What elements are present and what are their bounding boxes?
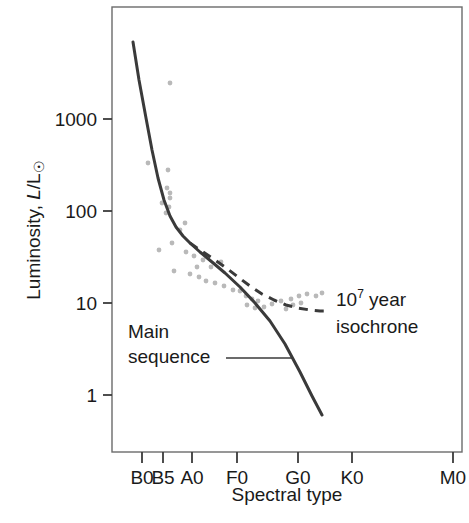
scatter-point <box>305 292 310 297</box>
scatter-point <box>262 305 267 310</box>
y-axis-title: Luminosity, L/L☉ <box>23 160 47 299</box>
scatter-point <box>168 196 173 201</box>
y-tick-label: 1 <box>86 385 97 406</box>
scatter-point <box>201 258 206 263</box>
scatter-point <box>297 294 302 299</box>
scatter-point <box>165 186 170 191</box>
scatter-point <box>320 291 325 296</box>
scatter-point <box>157 248 162 253</box>
scatter-point <box>184 250 189 255</box>
scatter-point <box>172 269 177 274</box>
y-tick-label: 10 <box>76 293 97 314</box>
plot-frame <box>112 7 462 452</box>
scatter-point <box>209 265 214 270</box>
scatter-point <box>231 288 236 293</box>
scatter-point <box>192 254 197 259</box>
scatter-point <box>279 299 284 304</box>
x-tick-label: B5 <box>151 467 174 488</box>
hr-diagram-figure: 1000100101 B0B5A0F0G0K0M0 Main sequence … <box>0 0 469 523</box>
x-axis-ticks <box>142 452 453 463</box>
isochrone-annotation: 107 year isochrone <box>336 287 418 337</box>
scatter-point <box>284 307 289 312</box>
scatter-data-points <box>146 81 325 312</box>
scatter-point <box>195 265 200 270</box>
scatter-point <box>168 81 173 86</box>
y-tick-label: 1000 <box>55 109 97 130</box>
x-axis-title: Spectral type <box>232 484 343 505</box>
scatter-point <box>289 297 294 302</box>
scatter-point <box>146 161 151 166</box>
y-axis-ticks <box>103 119 112 395</box>
scatter-point <box>314 294 319 299</box>
x-tick-label: A0 <box>180 467 203 488</box>
chart-canvas: 1000100101 B0B5A0F0G0K0M0 Main sequence … <box>0 0 469 523</box>
scatter-point <box>270 302 275 307</box>
x-tick-label: M0 <box>440 467 466 488</box>
scatter-point <box>197 275 202 280</box>
x-tick-label: B0 <box>130 467 153 488</box>
scatter-point <box>222 284 227 289</box>
scatter-point <box>188 272 193 277</box>
main-sequence-annotation: Main sequence <box>128 321 210 367</box>
scatter-point <box>204 279 209 284</box>
scatter-point <box>245 303 250 308</box>
x-tick-label: K0 <box>340 467 363 488</box>
scatter-point <box>213 281 218 286</box>
scatter-point <box>170 241 175 246</box>
scatter-point <box>183 221 188 226</box>
scatter-point <box>166 168 171 173</box>
scatter-point <box>168 191 173 196</box>
y-axis-tick-labels: 1000100101 <box>55 109 97 406</box>
y-tick-label: 100 <box>65 201 97 222</box>
scatter-point <box>299 301 304 306</box>
